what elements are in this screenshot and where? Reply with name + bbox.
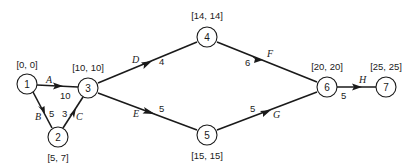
duration-label: 3 [62, 108, 67, 119]
duration-label: 5 [250, 103, 255, 114]
activity-label: B [35, 111, 41, 122]
duration-label: 5 [49, 108, 54, 119]
node-id: 1 [24, 79, 30, 90]
node-2: 2 [5, 7] [47, 127, 68, 163]
edge-a: A 10 [37, 74, 78, 101]
node-times: [14, 14] [191, 10, 223, 21]
edge-g: 5 G [217, 92, 317, 130]
duration-label: 10 [60, 90, 71, 101]
network-diagram: A 10 B 5 3 C D 4 E 5 6 F 5 G [0, 0, 416, 167]
node-id: 2 [55, 132, 61, 143]
duration-label: 6 [245, 57, 250, 68]
node-id: 6 [324, 82, 330, 93]
activity-label: C [76, 111, 83, 122]
edge-h: H 5 [337, 74, 376, 101]
duration-label: 5 [159, 103, 164, 114]
edge-f: 6 F [217, 42, 317, 82]
node-times: [0, 0] [16, 59, 37, 70]
node-4: 4 [14, 14] [191, 10, 223, 47]
node-times: [5, 7] [47, 152, 68, 163]
duration-label: 4 [159, 56, 164, 67]
activity-label: A [45, 74, 53, 85]
edge-d: D 4 [98, 42, 197, 83]
node-times: [15, 15] [191, 150, 223, 161]
node-id: 7 [383, 82, 389, 93]
node-id: 3 [85, 83, 91, 94]
edge-b: B 5 [33, 92, 54, 128]
activity-label: H [358, 74, 367, 85]
node-times: [20, 20] [311, 61, 343, 72]
activity-label: F [266, 48, 274, 59]
edge-e: E 5 [98, 93, 197, 130]
activity-label: D [131, 54, 140, 65]
node-1: 1 [0, 0] [16, 59, 37, 94]
node-id: 4 [204, 32, 210, 43]
activity-label: G [273, 109, 280, 120]
edge-c: 3 C [62, 97, 83, 128]
node-times: [25, 25] [370, 61, 402, 72]
duration-label: 5 [341, 90, 346, 101]
activity-label: E [132, 108, 139, 119]
node-7: 7 [25, 25] [370, 61, 402, 97]
node-id: 5 [204, 130, 210, 141]
node-times: [10, 10] [72, 62, 104, 73]
